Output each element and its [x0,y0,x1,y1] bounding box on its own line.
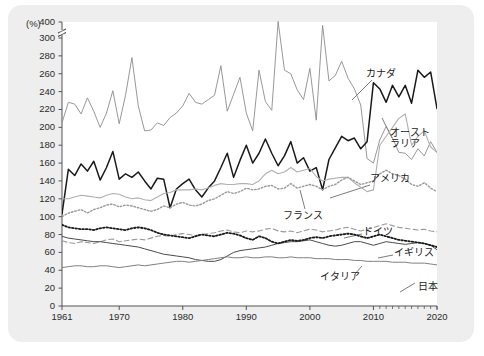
series-label-usa: アメリカ [370,173,410,184]
series-line-canada [62,70,437,214]
y-tick-label: 60 [21,247,55,256]
y-tick-label: 100 [21,212,55,221]
y-tick-label: 260 [21,69,55,78]
y-tick-label: 400 [21,17,55,26]
series-label-italy: イタリア [320,271,360,282]
series-line-japan [62,257,437,268]
series-label-australia: オーストラリア [390,127,430,149]
y-tick-label: 240 [21,87,55,96]
y-tick-label: 0 [21,301,55,310]
y-tick-label: 80 [21,230,55,239]
x-tick-label: 1990 [226,311,266,322]
y-tick-label: 20 [21,283,55,292]
y-tick-label: 280 [21,51,55,60]
y-tick-label: 220 [21,104,55,113]
series-label-germany: ドイツ [363,226,393,237]
chart-series [0,0,484,356]
series-label-france: フランス [283,210,323,221]
series-label-canada: カナダ [366,68,396,79]
y-tick-label: 40 [21,265,55,274]
y-tick-label: 140 [21,176,55,185]
x-tick-label: 1970 [99,311,139,322]
y-tick-label: 180 [21,140,55,149]
series-label-australia-line2: ラリア [390,138,430,149]
x-tick-label: 1961 [42,311,82,322]
y-tick-label: 160 [21,158,55,167]
x-tick-label: 2000 [290,311,330,322]
series-line-united-states [62,114,437,201]
series-label-japan: 日本 [418,281,438,292]
series-label-uk: イギリス [394,247,434,258]
y-tick-label: 120 [21,194,55,203]
series-label-australia-line1: オースト [390,127,430,138]
y-tick-label: 200 [21,122,55,131]
x-tick-label: 2020 [417,311,457,322]
chart-figure: (%) 400300280260240220200180160140120100… [0,0,484,356]
y-tick-label: 300 [21,33,55,42]
x-tick-label: 2010 [353,311,393,322]
x-tick-label: 1980 [163,311,203,322]
